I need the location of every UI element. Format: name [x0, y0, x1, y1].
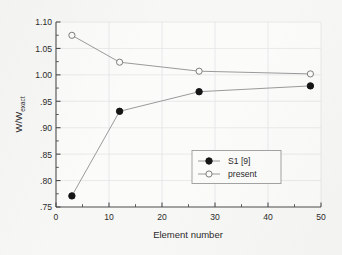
x-tick-label: 50: [316, 212, 326, 222]
legend-label-s1: S1 [9]: [228, 156, 250, 166]
y-tick-label: .75: [40, 202, 52, 212]
y-axis-title-subscript: exact: [19, 96, 26, 111]
filled-circle-icon: [206, 158, 212, 164]
svg-text:W/Wexact: W/Wexact: [13, 96, 26, 132]
open-circle-icon: [206, 171, 212, 177]
x-tick-label: 30: [210, 212, 220, 222]
y-tick-label: .95: [40, 97, 52, 107]
y-tick-label: 1.05: [35, 44, 52, 54]
x-axis: 0 10 20 30 40 50 Element number: [54, 203, 326, 241]
x-axis-title: Element number: [153, 229, 223, 240]
data-point-s1: [69, 193, 75, 199]
y-axis-title-main: W/W: [13, 112, 24, 133]
legend[interactable]: S1 [9] present: [192, 151, 281, 184]
chart-screenshot: 1.10 1.05 1.00 .95 .90 .85 .80 .75 W/Wex…: [0, 0, 342, 255]
y-tick-label: .85: [40, 150, 52, 160]
y-axis-title: W/Wexact: [13, 96, 26, 132]
data-point-s1: [116, 108, 122, 114]
x-tick-label: 10: [104, 212, 114, 222]
x-tick-label: 40: [263, 212, 273, 222]
x-tick-label: 20: [157, 212, 167, 222]
data-point-present: [196, 68, 202, 74]
x-tick-label: 0: [54, 212, 59, 222]
y-tick-label: 1.10: [35, 17, 52, 27]
data-point-present: [117, 59, 123, 65]
data-point-present: [69, 32, 75, 38]
data-point-present: [307, 71, 313, 77]
y-tick-label: .90: [40, 123, 52, 133]
line-chart: 1.10 1.05 1.00 .95 .90 .85 .80 .75 W/Wex…: [0, 0, 342, 255]
y-tick-label: 1.00: [35, 70, 52, 80]
data-point-s1: [307, 83, 313, 89]
y-tick-label: .80: [40, 176, 52, 186]
data-point-s1: [196, 89, 202, 95]
legend-label-present: present: [228, 169, 257, 179]
y-axis: 1.10 1.05 1.00 .95 .90 .85 .80 .75 W/Wex…: [13, 17, 61, 212]
